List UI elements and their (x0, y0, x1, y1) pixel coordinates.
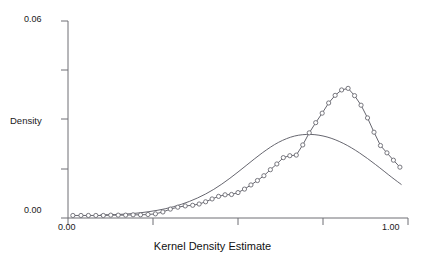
data-point-marker (352, 94, 356, 98)
data-point-marker (71, 213, 75, 217)
smooth-kde-path (100, 134, 401, 214)
empirical-kde-markers (71, 86, 402, 217)
data-point-marker (229, 192, 233, 196)
kernel-density-chart: Density 0.06 0.00 0.00 1.00 Kernel Densi… (0, 0, 425, 272)
data-point-marker (385, 151, 389, 155)
data-point-marker (320, 111, 324, 115)
data-point-marker (204, 200, 208, 204)
data-point-marker (249, 183, 253, 187)
data-point-marker (314, 121, 318, 125)
data-point-marker (131, 213, 135, 217)
data-point-marker (262, 174, 266, 178)
data-point-marker (301, 143, 305, 147)
data-point-marker (191, 203, 195, 207)
data-point-marker (242, 187, 246, 191)
x-tick-label-left: 0.00 (58, 222, 76, 232)
data-point-marker (294, 153, 298, 157)
data-point-marker (79, 213, 83, 217)
data-point-marker (281, 156, 285, 160)
x-axis-title: Kernel Density Estimate (0, 240, 425, 252)
data-point-marker (378, 143, 382, 147)
y-axis-ticks (61, 21, 68, 218)
data-point-marker (307, 131, 311, 135)
data-point-marker (275, 162, 279, 166)
empirical-kde-curve (73, 88, 400, 215)
data-point-marker (146, 212, 150, 216)
data-point-marker (138, 213, 142, 217)
data-point-marker (161, 210, 165, 214)
smooth-kde-curve (100, 134, 401, 214)
data-point-marker (340, 88, 344, 92)
x-axis-ticks (68, 218, 408, 225)
y-axis-title: Density (10, 115, 42, 126)
data-point-marker (210, 197, 214, 201)
data-point-marker (101, 213, 105, 217)
data-point-marker (372, 130, 376, 134)
data-point-marker (153, 212, 157, 216)
data-point-marker (346, 86, 350, 90)
data-point-marker (236, 190, 240, 194)
data-point-marker (268, 168, 272, 172)
data-point-marker (94, 213, 98, 217)
data-point-marker (255, 178, 259, 182)
y-tick-label-top: 0.06 (24, 14, 42, 24)
data-point-marker (197, 202, 201, 206)
data-point-marker (168, 207, 172, 211)
data-point-marker (109, 213, 113, 217)
data-point-marker (116, 213, 120, 217)
data-point-marker (333, 93, 337, 97)
data-point-marker (288, 154, 292, 158)
x-tick-label-right: 1.00 (382, 222, 400, 232)
data-point-marker (359, 103, 363, 107)
data-point-marker (398, 165, 402, 169)
data-point-marker (124, 213, 128, 217)
data-point-marker (223, 193, 227, 197)
data-point-marker (391, 158, 395, 162)
empirical-kde-path (73, 88, 400, 215)
data-point-marker (327, 101, 331, 105)
data-point-marker (365, 116, 369, 120)
data-point-marker (216, 194, 220, 198)
y-tick-label-bottom: 0.00 (24, 205, 42, 215)
data-point-marker (86, 213, 90, 217)
data-point-marker (176, 205, 180, 209)
data-point-marker (183, 204, 187, 208)
